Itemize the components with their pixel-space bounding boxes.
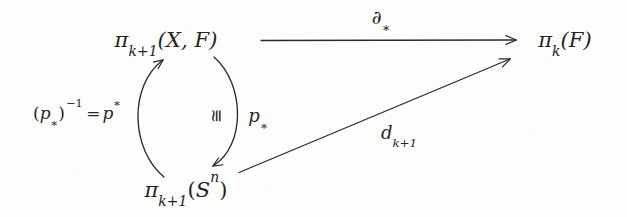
node-pi-symbol: π bbox=[115, 28, 129, 52]
isomorphism-symbol: ≅ bbox=[208, 109, 225, 123]
node-subscript: k bbox=[552, 43, 561, 59]
diagonal-arrow-label: dk+1 bbox=[381, 124, 417, 142]
label-inverse-exponent: −1 bbox=[65, 96, 84, 109]
node-arguments: (X, F) bbox=[158, 28, 218, 52]
partial-star-subscript: ∗ bbox=[382, 20, 391, 35]
commutative-diagram: pi_k(F) --> pi_k(F) --> πk+1(X, F) πk(F)… bbox=[0, 0, 627, 217]
label-p-symbol: p bbox=[248, 105, 260, 126]
label-d-symbol: d bbox=[381, 122, 393, 143]
partial-symbol: ∂ bbox=[372, 6, 382, 28]
diagonal-arrow-line bbox=[239, 59, 510, 173]
node-pi-symbol: π bbox=[144, 178, 158, 202]
top-horizontal-arrow-line bbox=[261, 40, 516, 41]
node-sphere-symbol: S bbox=[196, 178, 211, 202]
top-arrow-label: ∂∗ bbox=[372, 8, 390, 27]
node-arguments: (F) bbox=[561, 28, 592, 52]
label-p-star-subscript: ∗ bbox=[260, 119, 268, 133]
label-p-symbol: p bbox=[40, 103, 51, 123]
right-curved-arrow-label: p∗ bbox=[248, 107, 268, 125]
label-open-paren: ( bbox=[33, 103, 40, 123]
label-p-symbol-2: p bbox=[102, 103, 113, 123]
top-left-node: πk+1(X, F) bbox=[115, 30, 218, 51]
label-equals-sign: = bbox=[84, 103, 102, 123]
left-curved-arrow-label: (p∗)−1=p∗ bbox=[33, 105, 121, 122]
node-sphere-exponent: n bbox=[210, 168, 219, 184]
bottom-node: πk+1(Sn) bbox=[144, 180, 227, 201]
node-subscript: k+1 bbox=[158, 193, 187, 209]
label-p-star-subscript: ∗ bbox=[51, 116, 59, 129]
node-close-paren: ) bbox=[219, 178, 227, 202]
label-close-paren: ) bbox=[58, 103, 65, 123]
label-d-subscript: k+1 bbox=[392, 136, 417, 150]
top-right-node: πk(F) bbox=[538, 30, 592, 51]
label-p-upper-star: ∗ bbox=[113, 96, 121, 109]
node-subscript: k+1 bbox=[128, 43, 157, 59]
left-curved-arrow-line bbox=[138, 60, 164, 177]
node-pi-symbol: π bbox=[538, 28, 552, 52]
